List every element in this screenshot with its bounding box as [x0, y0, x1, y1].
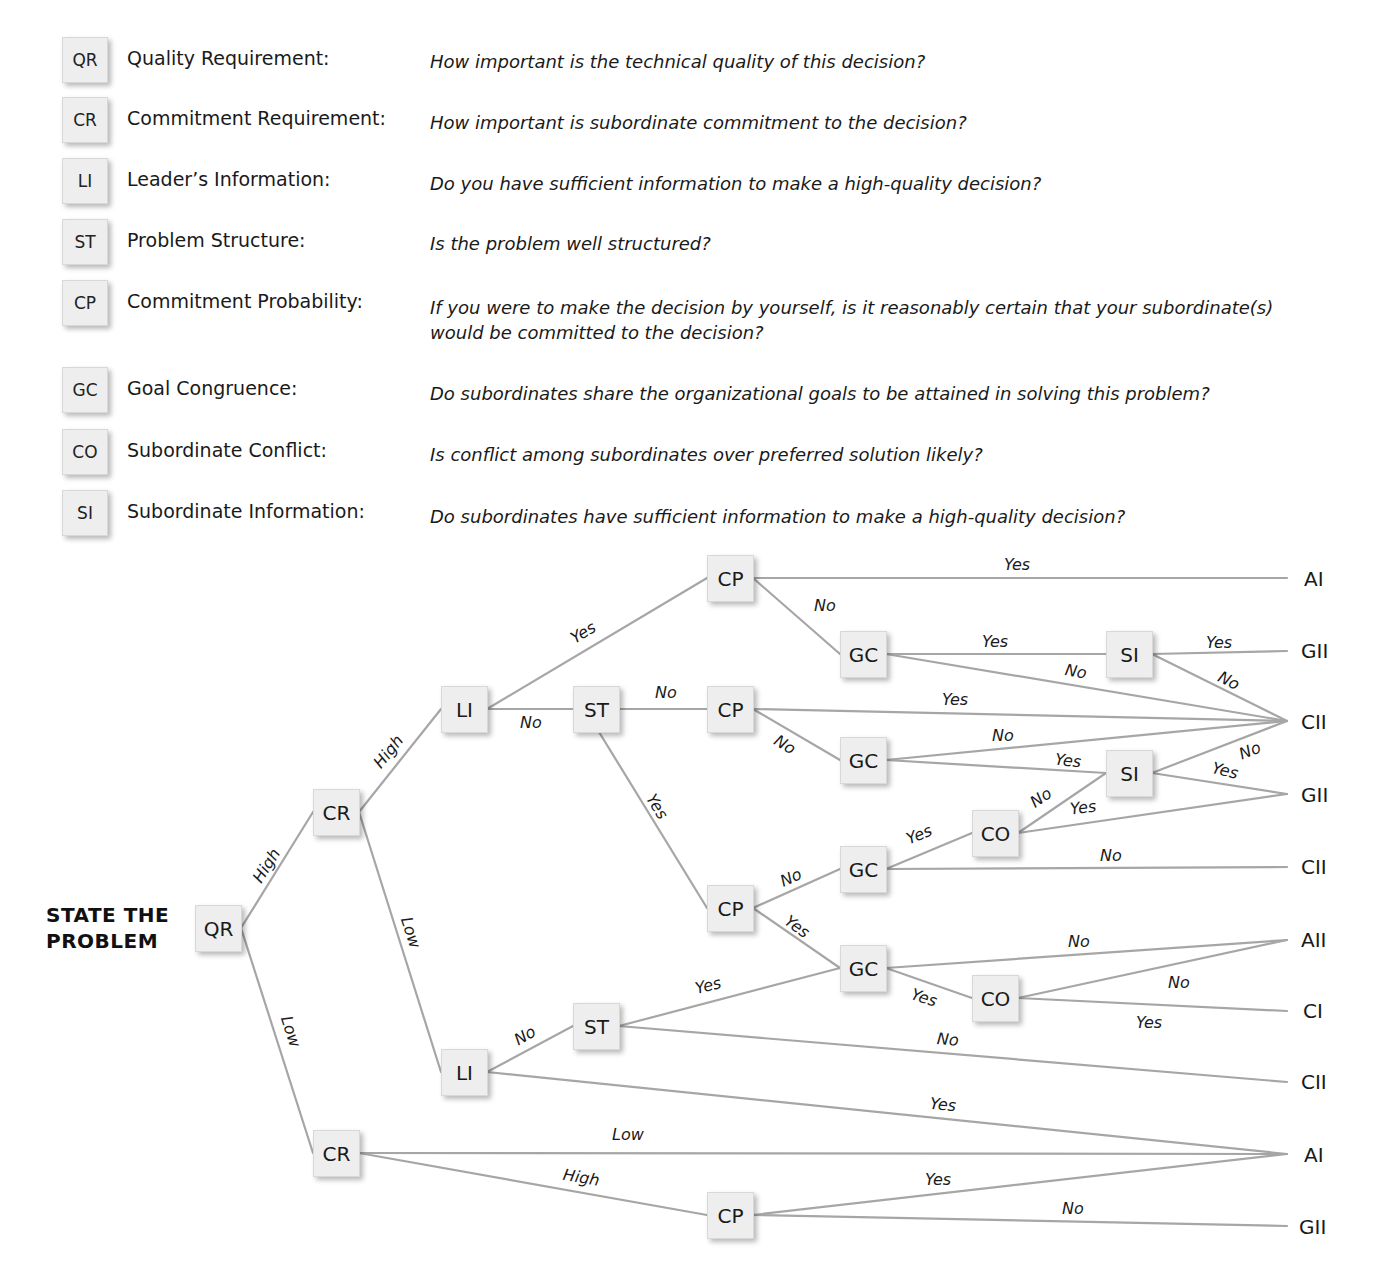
start-label-line2: PROBLEM [46, 928, 169, 954]
outcome-label: GII [1299, 1215, 1326, 1239]
node-gc-c: GC [840, 846, 887, 893]
node-li-lower: LI [441, 1049, 488, 1096]
node-cp-a: CP [707, 555, 754, 602]
node-si-b: SI [1106, 750, 1153, 797]
node-cp-b: CP [707, 686, 754, 733]
outcome-label: GII [1301, 783, 1328, 807]
outcome-label: AI [1304, 1143, 1324, 1167]
node-cp-c: CP [707, 885, 754, 932]
edge-label: Yes [1136, 1013, 1162, 1032]
outcome-label: CII [1301, 855, 1327, 879]
start-label-line1: STATE THE [46, 902, 169, 928]
edge-label: No [1100, 846, 1122, 865]
node-st-lower: ST [573, 1003, 620, 1050]
edge-label: Low [612, 1125, 644, 1144]
edge-label: Yes [1206, 633, 1232, 652]
edge-label: No [814, 596, 836, 615]
node-cp-d: CP [707, 1192, 754, 1239]
edge-label: No [992, 726, 1014, 745]
edge-label: No [1068, 932, 1090, 951]
edge-label: No [1062, 1199, 1084, 1218]
node-li-upper: LI [441, 686, 488, 733]
outcome-label: GII [1301, 639, 1328, 663]
edge-label: Yes [982, 632, 1008, 651]
node-gc-b: GC [840, 737, 887, 784]
decision-tree-edges [0, 0, 1375, 1274]
node-gc-a: GC [840, 631, 887, 678]
edge-label: No [520, 713, 542, 732]
edge-label: Yes [1004, 555, 1030, 574]
node-cr-low: CR [313, 1130, 360, 1177]
edge-label: Yes [1069, 796, 1097, 818]
node-co-b: CO [972, 975, 1019, 1022]
edge-label: No [1064, 660, 1089, 682]
outcome-label: AI [1304, 567, 1324, 591]
state-the-problem-label: STATE THE PROBLEM [46, 902, 169, 954]
edge-label: Yes [942, 690, 968, 709]
outcome-label: CII [1301, 1070, 1327, 1094]
edge-label: No [655, 683, 677, 702]
outcome-label: AII [1301, 928, 1326, 952]
node-st-upper: ST [573, 686, 620, 733]
node-qr: QR [195, 905, 242, 952]
edge-label: Yes [1054, 750, 1082, 772]
edge-label: No [936, 1029, 959, 1050]
edge-label: Yes [925, 1170, 951, 1189]
outcome-label: CII [1301, 710, 1327, 734]
node-co-a: CO [972, 810, 1019, 857]
edge-label: No [1168, 973, 1190, 992]
node-cr-high: CR [313, 789, 360, 836]
outcome-label: CI [1303, 999, 1323, 1023]
node-si-a: SI [1106, 631, 1153, 678]
edge-label: Yes [929, 1094, 957, 1115]
node-gc-d: GC [840, 945, 887, 992]
